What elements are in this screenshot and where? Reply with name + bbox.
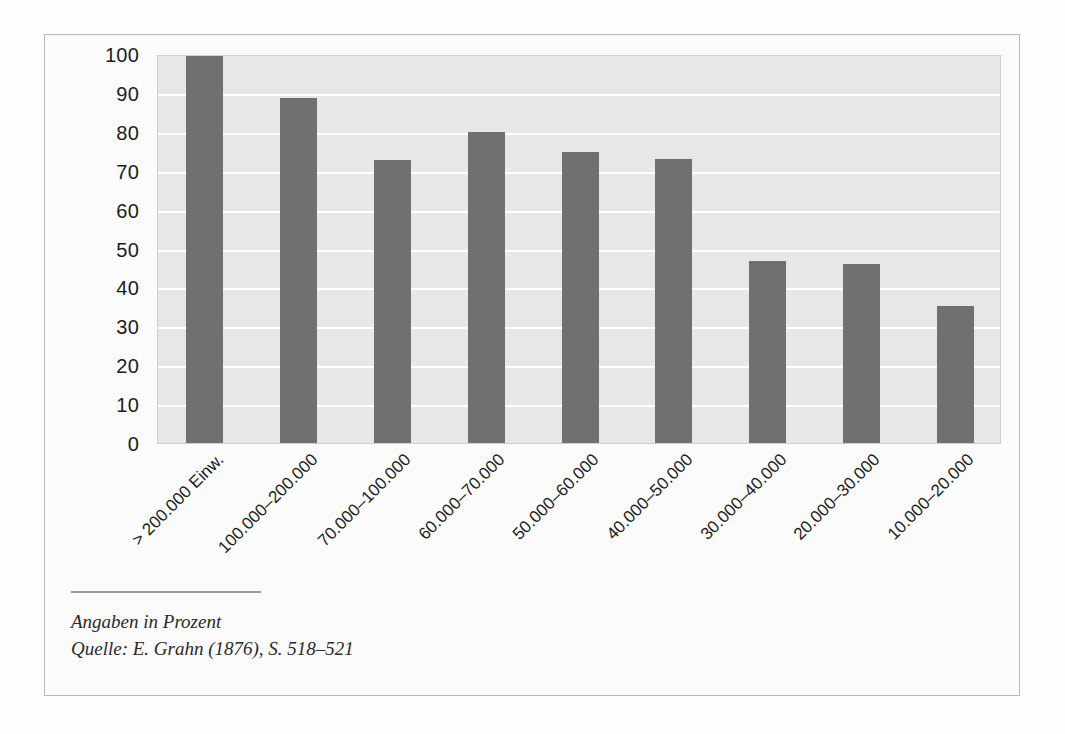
- x-axis-tick-label: 50.000–60.000: [509, 450, 603, 544]
- bar: [280, 98, 317, 443]
- bar: [186, 55, 223, 443]
- y-axis-tick-label: 10: [116, 394, 139, 417]
- x-axis-tick-label: 100.000–200.000: [214, 450, 322, 558]
- y-axis-tick-label: 80: [116, 121, 139, 144]
- x-axis-tick-label: 10.000–20.000: [884, 450, 978, 544]
- y-axis-tick-label: 90: [116, 82, 139, 105]
- bar: [374, 160, 411, 443]
- y-axis-tick-label: 40: [116, 277, 139, 300]
- x-axis-tick-label: 30.000–40.000: [697, 450, 791, 544]
- x-axis-tick-label: 20.000–30.000: [790, 450, 884, 544]
- y-axis-tick-label: 20: [116, 355, 139, 378]
- x-axis-tick-label: 70.000–100.000: [314, 450, 415, 551]
- y-axis-tick-label: 0: [128, 433, 139, 456]
- y-axis-tick-label: 50: [116, 238, 139, 261]
- bar: [468, 132, 505, 443]
- bar-series: [158, 56, 1000, 443]
- x-axis-tick-label: 60.000–70.000: [415, 450, 509, 544]
- bar: [937, 306, 974, 443]
- bar: [843, 264, 880, 443]
- y-axis-tick-label: 70: [116, 160, 139, 183]
- y-axis-tick-label: 60: [116, 199, 139, 222]
- caption-line-units: Angaben in Prozent: [71, 609, 771, 636]
- y-axis: 1009080706050403020100: [45, 55, 149, 444]
- figure-container: 1009080706050403020100 > 200.000 Einw.10…: [0, 0, 1065, 734]
- plot-area: [157, 55, 1001, 444]
- chart-frame: 1009080706050403020100 > 200.000 Einw.10…: [44, 34, 1020, 696]
- caption-block: Angaben in Prozent Quelle: E. Grahn (187…: [71, 591, 771, 663]
- y-axis-tick-label: 30: [116, 316, 139, 339]
- x-axis-tick-label: > 200.000 Einw.: [128, 450, 228, 550]
- caption-line-source: Quelle: E. Grahn (1876), S. 518–521: [71, 636, 771, 663]
- y-axis-tick-label: 100: [105, 44, 139, 67]
- bar: [562, 152, 599, 443]
- bar: [655, 159, 692, 443]
- bar: [749, 261, 786, 443]
- caption-divider: [71, 591, 261, 593]
- x-axis-tick-label: 40.000–50.000: [603, 450, 697, 544]
